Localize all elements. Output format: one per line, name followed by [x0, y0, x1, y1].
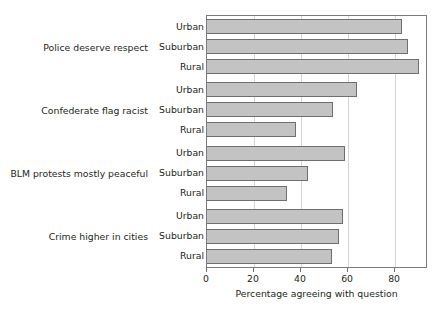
- x-tick: [253, 268, 254, 272]
- plot-area: [206, 15, 427, 268]
- x-tick: [300, 268, 301, 272]
- category-tick-labels: UrbanSuburbanRural: [150, 142, 204, 205]
- category-label-suburban: Suburban: [159, 103, 204, 114]
- category-tick-labels: UrbanSuburbanRural: [150, 78, 204, 141]
- x-tick-label: 80: [388, 273, 400, 284]
- category-label-suburban: Suburban: [159, 230, 204, 241]
- category-label-urban: Urban: [176, 147, 204, 158]
- bar: [207, 102, 333, 117]
- bar: [207, 39, 408, 54]
- category-label-rural: Rural: [180, 123, 204, 134]
- x-tick: [206, 268, 207, 272]
- category-label-urban: Urban: [176, 210, 204, 221]
- category-label-suburban: Suburban: [159, 40, 204, 51]
- question-group: Crime higher in citiesUrbanSuburbanRural: [0, 205, 206, 268]
- category-tick-labels: UrbanSuburbanRural: [150, 205, 204, 268]
- x-tick-label: 20: [247, 273, 259, 284]
- category-label-rural: Rural: [180, 187, 204, 198]
- question-label: Police deserve respect: [43, 41, 148, 52]
- question-group: Confederate flag racistUrbanSuburbanRura…: [0, 78, 206, 141]
- question-group: BLM protests mostly peacefulUrbanSuburba…: [0, 142, 206, 205]
- x-tick-label: 60: [341, 273, 353, 284]
- question-group: Police deserve respectUrbanSuburbanRural: [0, 15, 206, 78]
- x-tick-label: 0: [203, 273, 209, 284]
- category-label-urban: Urban: [176, 20, 204, 31]
- bar: [207, 59, 419, 74]
- bar-chart: Police deserve respectUrbanSuburbanRural…: [0, 0, 446, 317]
- bar: [207, 146, 345, 161]
- bar: [207, 122, 296, 137]
- bar: [207, 229, 339, 244]
- category-label-rural: Rural: [180, 250, 204, 261]
- category-tick-labels: UrbanSuburbanRural: [150, 15, 204, 78]
- x-tick: [394, 268, 395, 272]
- x-axis-title: Percentage agreeing with question: [206, 288, 427, 299]
- bar: [207, 209, 343, 224]
- category-label-urban: Urban: [176, 83, 204, 94]
- question-label: Crime higher in cities: [49, 231, 148, 242]
- question-label: Confederate flag racist: [41, 104, 148, 115]
- bar: [207, 186, 287, 201]
- bar: [207, 82, 357, 97]
- x-tick: [347, 268, 348, 272]
- x-tick-label: 40: [294, 273, 306, 284]
- bar: [207, 249, 332, 264]
- bar: [207, 166, 308, 181]
- bar: [207, 19, 402, 34]
- question-label: BLM protests mostly peaceful: [10, 168, 148, 179]
- category-label-rural: Rural: [180, 60, 204, 71]
- category-label-suburban: Suburban: [159, 167, 204, 178]
